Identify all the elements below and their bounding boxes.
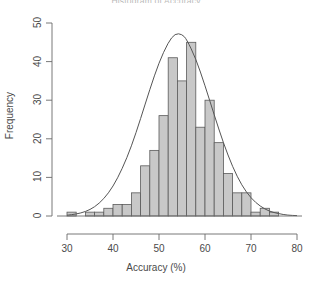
histogram-bar [131,193,140,216]
histogram-bar [260,208,269,216]
y-axis-tick-label: 50 [32,13,43,33]
histogram-bar [223,174,232,216]
histogram-bar [177,81,186,216]
histogram-bars [67,42,279,216]
histogram-bar [122,204,131,216]
histogram-bar [95,212,104,216]
histogram-bar [141,166,150,216]
x-axis-tick-label: 80 [282,243,312,254]
x-axis-tick-label: 60 [190,243,220,254]
histogram-figure: Histogram of Accuracy 304050607080 01020… [0,0,312,289]
histogram-bar [104,208,113,216]
histogram-bar [233,193,242,216]
histogram-bar [113,204,122,216]
y-axis-tick-label: 10 [32,167,43,187]
x-axis-tick-label: 30 [52,243,82,254]
histogram-bar [205,100,214,216]
histogram-bar [196,127,205,216]
y-axis-tick-label: 20 [32,128,43,148]
histogram-bar [187,42,196,216]
histogram-bar [214,143,223,216]
y-axis-tick-label: 40 [32,51,43,71]
histogram-bar [251,212,260,216]
y-axis-tick-label: 0 [32,206,43,226]
y-axis-tick-label: 30 [32,90,43,110]
histogram-bar [150,150,159,216]
x-axis-label: Accuracy (%) [0,262,312,273]
y-axis-label: Frequency [4,81,15,151]
x-axis-tick-label: 50 [144,243,174,254]
histogram-bar [168,58,177,216]
x-axis-tick-label: 70 [236,243,266,254]
histogram-bar [159,116,168,216]
x-axis-tick-label: 40 [98,243,128,254]
histogram-bar [85,212,94,216]
